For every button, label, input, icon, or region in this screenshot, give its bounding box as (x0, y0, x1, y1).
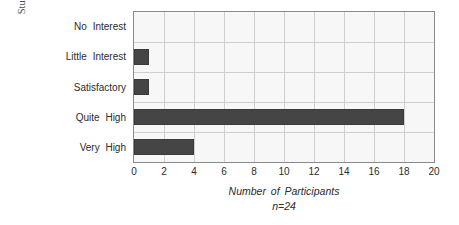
y-axis-tick-label: Very High (40, 133, 130, 163)
vertical-gridline (434, 12, 435, 162)
bar-chart-figure: Student ownership of activities No Inter… (0, 0, 459, 225)
y-axis-tick-label: Little Interest (40, 41, 130, 71)
bar-row (134, 42, 434, 72)
x-axis-tick-label: 14 (338, 166, 349, 177)
bar (134, 49, 149, 65)
bar-row (134, 72, 434, 102)
y-axis-tick-labels: No Interest Little Interest Satisfactory… (40, 11, 130, 163)
x-axis-title: Number of Participants (133, 184, 435, 198)
x-axis-tick-label: 2 (161, 166, 167, 177)
bar (134, 109, 404, 125)
plot-area (133, 11, 435, 163)
x-axis-tick-label: 4 (191, 166, 197, 177)
x-axis-tick-label: 16 (368, 166, 379, 177)
bar-row (134, 102, 434, 132)
x-axis-tick-label: 12 (308, 166, 319, 177)
bar (134, 79, 149, 95)
x-axis-tick-label: 20 (428, 166, 439, 177)
x-axis-tick-label: 10 (278, 166, 289, 177)
bar (134, 139, 194, 155)
x-axis-tick-label: 6 (221, 166, 227, 177)
x-axis-tick-label: 8 (251, 166, 257, 177)
bar-row (134, 12, 434, 42)
y-axis-tick-label: No Interest (40, 11, 130, 41)
y-axis-tick-label: Quite High (40, 102, 130, 132)
y-axis-title-line-1: Student ownership (16, 0, 29, 14)
x-axis-tick-labels: 02468101214161820 (133, 166, 435, 180)
x-axis-tick-label: 0 (131, 166, 137, 177)
x-axis-tick-label: 18 (398, 166, 409, 177)
x-axis-subtitle: n=24 (133, 199, 435, 213)
bar-row (134, 132, 434, 162)
y-axis-tick-label: Satisfactory (40, 72, 130, 102)
